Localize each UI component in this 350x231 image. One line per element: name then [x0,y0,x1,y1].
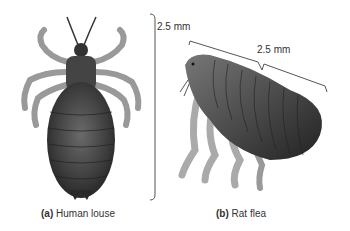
caption-rat-flea: (b) Rat flea [216,208,266,219]
figure-illustration [0,0,350,231]
caption-text-b: Rat flea [232,208,266,219]
louse-scale-label: 2.5 mm [157,21,190,32]
caption-text-a: Human louse [56,208,115,219]
louse-scale-bracket [150,14,155,200]
human-louse-illustration [24,17,138,200]
rat-flea-illustration [180,54,322,188]
flea-scale-label: 2.5 mm [257,44,290,55]
panel-letter-b: (b) [216,208,229,219]
panel-letter-a: (a) [41,208,53,219]
caption-human-louse: (a) Human louse [41,208,115,219]
